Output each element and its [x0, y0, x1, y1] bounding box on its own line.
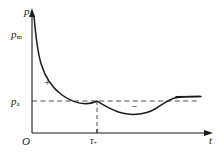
tau-plus-label: τ+: [90, 136, 97, 146]
peak-overpressure-label: pm: [11, 29, 22, 41]
y-axis-label: p: [24, 6, 30, 17]
ambient-pressure-label: pa: [11, 96, 20, 108]
tau-subscript: +: [94, 139, 98, 146]
negative-phase-sign: −: [131, 101, 137, 112]
pressure-time-diagram: [0, 0, 223, 155]
plot-background: [0, 0, 223, 155]
positive-phase-sign: +: [44, 77, 50, 88]
x-axis-label: t: [209, 135, 212, 146]
ambient-pressure-subscript: a: [17, 100, 20, 107]
origin-label: O: [22, 136, 30, 147]
peak-overpressure-subscript: m: [17, 33, 22, 40]
